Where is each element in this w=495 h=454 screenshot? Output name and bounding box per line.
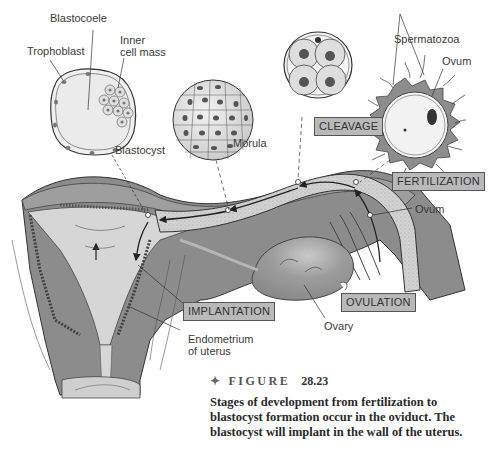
- stage-ovulation: OVULATION: [341, 293, 416, 312]
- label-spermatozoa: Spermatozoa: [394, 33, 459, 45]
- label-blastocoele: Blastocoele: [50, 12, 107, 24]
- stage-implantation: IMPLANTATION: [183, 302, 275, 321]
- diamond-star-icon: ✦: [210, 374, 223, 388]
- label-inner-cell-mass-line2: cell mass: [120, 46, 166, 58]
- figure-caption: ✦FIGURE 28.23 Stages of development from…: [210, 374, 490, 440]
- label-endometrium-line2: of uterus: [188, 345, 231, 357]
- label-inner-cell-mass-line1: Inner: [120, 34, 145, 46]
- stage-cleavage: CLEAVAGE: [314, 117, 383, 136]
- label-blastocyst: Blastocyst: [115, 144, 165, 156]
- label-ovum-fertilization: Ovum: [442, 55, 471, 67]
- cleavage-illustration: [284, 32, 352, 180]
- label-endometrium-line1: Endometrium: [188, 333, 253, 345]
- figure-heading: ✦FIGURE 28.23: [210, 374, 490, 389]
- label-ovary: Ovary: [324, 320, 353, 332]
- stage-fertilization: FERTILIZATION: [392, 172, 485, 191]
- figure-caption-text: Stages of development from fertilization…: [210, 395, 490, 440]
- figure-label: FIGURE: [229, 374, 291, 388]
- label-morula: Morula: [233, 137, 267, 149]
- label-trophoblast: Trophoblast: [27, 45, 85, 57]
- label-ovum-oviduct: Ovum: [415, 203, 444, 215]
- figure-diagram: Blastocoele Trophoblast Inner cell mass …: [0, 0, 495, 454]
- figure-number: 28.23: [301, 374, 328, 388]
